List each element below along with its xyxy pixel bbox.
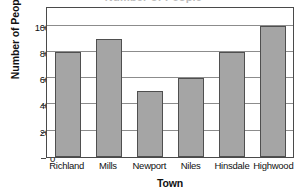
bar-slot [211,8,252,157]
bar-slot [252,8,293,157]
y-axis-tick-mark [41,158,46,159]
x-axis-title: Town [46,177,294,189]
x-axis-tick-labels: RichlandMillsNewportNilesHinsdaleHighwoo… [46,160,294,174]
x-axis-tick-label: Newport [129,160,170,174]
bar-series [47,8,293,157]
bar-chart-figure: Number of People Number of People 020040… [0,0,307,196]
bar-richland [55,52,81,157]
bar-slot [170,8,211,157]
bar-slot [47,8,88,157]
x-axis-tick-label: Richland [46,160,87,174]
bar-mills [96,39,122,157]
bar-hinsdale [219,52,245,157]
plot-area [46,7,294,158]
bar-highwood [260,26,286,157]
bar-newport [137,91,163,157]
x-axis-tick-label: Highwood [253,160,294,174]
bar-slot [129,8,170,157]
x-axis-tick-label: Hinsdale [211,160,252,174]
chart-title-cropped: Number of People [0,0,307,4]
x-axis-tick-label: Mills [87,160,128,174]
bar-niles [178,78,204,157]
bar-slot [88,8,129,157]
x-axis-tick-label: Niles [170,160,211,174]
chart-title-text: Number of People [105,0,202,3]
